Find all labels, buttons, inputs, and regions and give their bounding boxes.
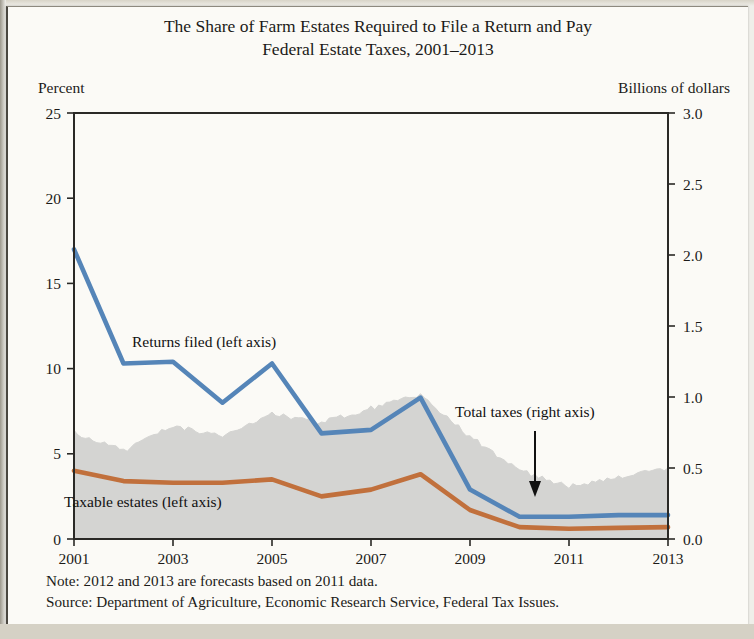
left-axis-tick-label: 25 xyxy=(46,105,62,122)
chart-svg: 05101520250.00.51.01.52.02.53.0200120032… xyxy=(8,7,748,625)
x-axis-tick-label: 2003 xyxy=(158,550,189,567)
x-axis-tick-label: 2007 xyxy=(356,550,387,567)
x-axis-tick-label: 2011 xyxy=(554,550,584,567)
right-axis-tick-label: 3.0 xyxy=(683,105,703,122)
right-axis-tick-label: 0.0 xyxy=(683,531,703,548)
left-axis-tick-label: 5 xyxy=(53,445,61,462)
source-line: Source: Department of Agriculture, Econo… xyxy=(46,591,736,612)
right-axis-tick-label: 0.5 xyxy=(683,460,703,477)
left-axis-tick-label: 0 xyxy=(53,531,61,548)
left-axis-tick-label: 20 xyxy=(46,190,62,207)
right-axis-tick-label: 1.5 xyxy=(683,318,703,335)
x-axis-tick-label: 2009 xyxy=(455,550,486,567)
total-taxes-annotation: Total taxes (right axis) xyxy=(455,403,595,421)
x-axis-tick-label: 2013 xyxy=(653,550,684,567)
note-line: Note: 2012 and 2013 are forecasts based … xyxy=(46,570,736,591)
x-axis-tick-label: 2001 xyxy=(59,550,90,567)
left-axis-tick-label: 10 xyxy=(46,360,62,377)
taxable-estates-annotation: Taxable estates (left axis) xyxy=(64,493,222,511)
figure-panel: The Share of Farm Estates Required to Fi… xyxy=(6,6,748,625)
scan-edge-bottom xyxy=(0,624,754,639)
right-axis-tick-label: 2.5 xyxy=(683,176,703,193)
left-axis-tick-label: 15 xyxy=(46,275,62,292)
returns-filed-annotation: Returns filed (left axis) xyxy=(132,333,276,351)
x-axis-tick-label: 2005 xyxy=(257,550,288,567)
right-axis-tick-label: 1.0 xyxy=(683,389,703,406)
plot-area: 05101520250.00.51.01.52.02.53.0200120032… xyxy=(8,7,748,625)
footnotes: Note: 2012 and 2013 are forecasts based … xyxy=(46,570,736,612)
right-axis-tick-label: 2.0 xyxy=(683,247,703,264)
screenshot-page: The Share of Farm Estates Required to Fi… xyxy=(0,0,754,639)
